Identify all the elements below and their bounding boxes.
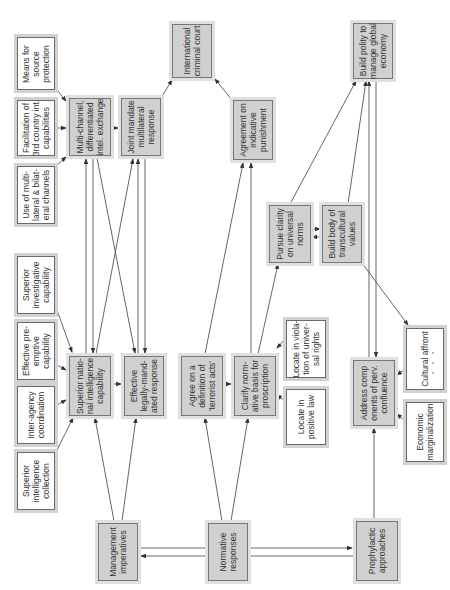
node-locate-violation-universal-rights: Locate in viola- tion of univer- sal rig… — [286, 320, 326, 378]
node-economic-marginalization: Economic marginalization — [406, 402, 444, 462]
edges-layer — [0, 0, 450, 590]
node-label: Means for source protection — [21, 45, 51, 83]
node-label: Facilitation of 3rd country int. capabil… — [21, 100, 51, 156]
node-international-criminal-court: International criminal court — [172, 24, 212, 78]
scan-mark — [432, 352, 434, 354]
scan-mark — [432, 362, 434, 364]
node-normative-responses: Normative responses — [208, 523, 248, 581]
node-pursue-clarity-universal-norms: Pursue clarity on universal norms — [269, 205, 311, 263]
node-label: Address comp onents of perv. confluence — [359, 365, 389, 421]
node-label: Superior intelligence collection — [21, 460, 51, 503]
node-multichannel-intel-exchange: Multi-channel, differentiated intel. exc… — [69, 98, 111, 156]
node-address-components-confluence: Address comp onents of perv. confluence — [353, 360, 395, 426]
node-joint-mandate-response: Joint mandate multilateral response — [121, 98, 161, 156]
node-cultural-affront: Cultural affront — [406, 328, 444, 390]
node-label: Clarify norm- ative basis for proscripti… — [240, 360, 270, 412]
node-label: Multi-channel, differentiated intel. exc… — [75, 98, 105, 155]
node-label: Effective legally-mand- ated response — [129, 359, 159, 413]
node-superior-national-intelligence: Superior natio- nal intelligence capabil… — [69, 356, 111, 416]
node-label: Build body of transcultural values — [327, 209, 357, 258]
node-facilitation-3rd-country: Facilitation of 3rd country int. capabil… — [17, 100, 55, 156]
node-label: Agree on a definition of 'terrorist acts… — [187, 361, 217, 411]
node-label: International criminal court — [182, 26, 202, 77]
node-clarify-normative-basis: Clarify norm- ative basis for proscripti… — [234, 356, 276, 416]
node-label: Superior investigative capability — [21, 262, 51, 309]
node-label: Use of multi- lateral & bilat- eral chan… — [21, 169, 51, 221]
node-prophylactic-approaches: Prophylactic approaches — [356, 521, 398, 581]
node-label: Joint mandate multilateral response — [126, 100, 156, 153]
node-means-source-protection: Means for source protection — [17, 37, 55, 90]
node-label: Agreement on indicative punishment — [238, 103, 268, 156]
node-label: Inter-agency coordination — [26, 391, 46, 438]
node-label: Normative responses — [218, 532, 238, 571]
scan-mark — [432, 372, 434, 374]
node-effective-preemptive-capability: Effective pre- emptive capability — [17, 322, 55, 380]
node-effective-legally-mandated-response: Effective legally-mand- ated response — [124, 356, 164, 416]
node-use-multilateral-channels: Use of multi- lateral & bilat- eral chan… — [17, 166, 55, 224]
node-label: Locate in viola- tion of univer- sal rig… — [291, 320, 321, 377]
node-locate-positive-law: Locate in positive law — [286, 389, 326, 445]
node-agreement-indicative-punishment: Agreement on indicative punishment — [233, 100, 273, 160]
node-label: Build polity to manage global economy — [358, 23, 388, 79]
node-label: Prophylactic approaches — [367, 528, 387, 574]
node-label: Management imperatives — [108, 527, 128, 577]
node-label: Pursue clarity on universal norms — [275, 208, 305, 260]
node-build-body-transcultural-values: Build body of transcultural values — [322, 205, 362, 263]
node-label: Superior natio- nal intelligence capabil… — [75, 358, 105, 414]
node-build-polity-global-economy: Build polity to manage global economy — [353, 23, 393, 79]
node-interagency-coordination: Inter-agency coordination — [17, 386, 55, 444]
node-label: Economic marginalization — [415, 403, 435, 460]
node-label: Locate in positive law — [296, 395, 316, 439]
node-agree-definition-terrorist-acts: Agree on a definition of 'terrorist acts… — [181, 356, 223, 416]
diagram-canvas: Means for source protection Facilitation… — [0, 0, 450, 590]
node-management-imperatives: Management imperatives — [98, 523, 138, 581]
node-label: Cultural affront — [420, 331, 430, 387]
node-superior-investigative-capability: Superior investigative capability — [17, 256, 55, 314]
node-label: Effective pre- emptive capability — [21, 326, 51, 376]
node-superior-intelligence-collection: Superior intelligence collection — [17, 452, 55, 510]
